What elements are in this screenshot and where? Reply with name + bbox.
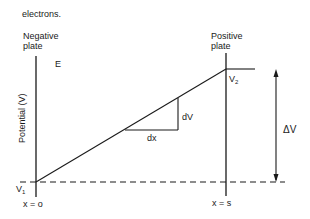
positive-plate-label-line2: plate — [211, 41, 231, 51]
positive-plate-label-line1: Positive — [211, 31, 243, 41]
delta-v-label: ΔV — [283, 125, 296, 135]
delta-v-arrowhead-up-icon — [274, 69, 279, 77]
x-s-label: x = s — [212, 198, 231, 208]
v1-label: V1 — [16, 184, 25, 195]
x-origin-label: x = o — [23, 199, 43, 209]
negative-plate-label-line1: Negative — [23, 31, 59, 41]
field-e-label: E — [55, 59, 61, 69]
v1-subscript: 1 — [22, 189, 25, 195]
potential-slope-line — [36, 69, 226, 182]
y-axis-label: Potential (V) — [17, 93, 27, 143]
dx-label: dx — [147, 133, 157, 143]
dv-label: dV — [182, 112, 193, 122]
delta-v-arrowhead-down-icon — [274, 174, 279, 182]
negative-plate-label-line2: plate — [23, 41, 43, 51]
caption-fragment: electrons. — [22, 9, 61, 19]
v2-subscript: 2 — [235, 79, 238, 85]
v2-label: V2 — [229, 74, 238, 85]
